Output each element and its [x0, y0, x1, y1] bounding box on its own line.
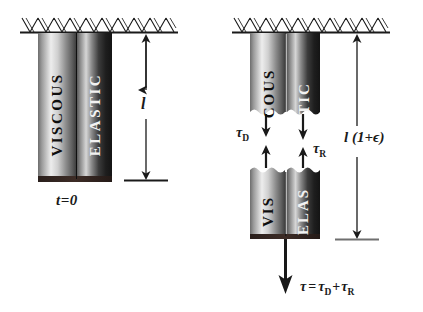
ground-hatching-left — [20, 18, 178, 33]
equals-sign: = — [308, 279, 316, 294]
restoring-stress-label: τR — [313, 142, 326, 159]
upper-left-cylinder-label: COUS — [261, 39, 278, 149]
total-stress-equation: τ=τD+τR — [300, 280, 354, 297]
upper-right-cylinder-label: TIC — [296, 44, 313, 154]
plus-sign: + — [332, 279, 340, 294]
tau-d-term-subscript: D — [324, 287, 331, 297]
tau-d-subscript: D — [242, 133, 249, 143]
right-cylinder-initial-label: ELASTIC — [87, 55, 104, 175]
lower-right-cylinder-label: ELAS — [295, 157, 312, 267]
tau-total-symbol: τ — [300, 279, 306, 294]
lower-left-cylinder-label: VIS — [260, 157, 277, 267]
dimension-label-extended: l (1+ϵ) — [344, 130, 384, 145]
total-stress-arrow — [279, 239, 293, 294]
dimension-line-initial — [124, 34, 168, 181]
tau-r-subscript: R — [319, 149, 326, 159]
cylinder-pair-initial-base — [38, 176, 112, 182]
dimension-label-initial: l — [141, 96, 145, 112]
panel-caption-initial: t=0 — [56, 193, 78, 208]
ground-hatching-right — [232, 18, 390, 33]
damping-stress-label: τD — [236, 126, 249, 143]
elastic-text: ELASTIC — [87, 73, 103, 156]
viscous-text: VISCOUS — [49, 72, 65, 156]
left-cylinder-initial-label: VISCOUS — [49, 55, 66, 175]
figure-canvas: VISCOUS ELASTIC l t=0 COUS TIC VIS ELAS … — [0, 0, 423, 312]
tau-r-term-subscript: R — [348, 287, 355, 297]
